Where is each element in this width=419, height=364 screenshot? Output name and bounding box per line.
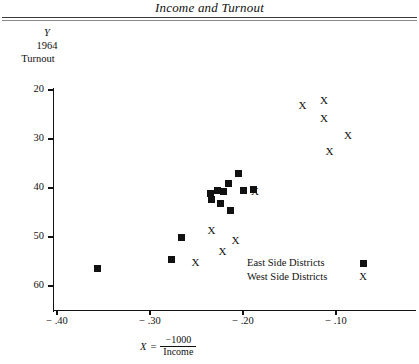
fraction-numerator: −1000 — [163, 335, 195, 346]
data-point-x: X — [230, 235, 241, 246]
y-tick — [48, 187, 53, 188]
data-point-x: X — [324, 146, 335, 157]
data-point-x: X — [297, 100, 308, 111]
y-axis-label-variable: Y — [36, 26, 58, 39]
x-tick-label: − .40 — [34, 315, 80, 326]
chart-title: Income and Turnout — [0, 0, 419, 16]
y-axis-label-year: 1964 — [24, 39, 70, 52]
data-point-square — [227, 207, 234, 214]
x-tick-label: − .10 — [313, 315, 359, 326]
legend-item-west-side: West Side Districts X — [247, 270, 371, 284]
legend-label-west-side: West Side Districts — [247, 270, 355, 284]
y-tick-label: 30 — [18, 132, 44, 143]
title-rule-lower — [2, 20, 417, 21]
data-point-x: X — [250, 186, 261, 197]
data-point-square — [225, 180, 232, 187]
x-axis-label-fraction: −1000 Income — [160, 335, 196, 357]
x-axis-label-equals: = — [150, 341, 156, 352]
data-point-square — [94, 265, 101, 272]
legend-item-east-side: East Side Districts — [247, 256, 371, 270]
data-point-x: X — [343, 130, 354, 141]
y-tick-label: 20 — [18, 83, 44, 94]
data-point-square — [235, 170, 242, 177]
data-point-square — [240, 187, 247, 194]
data-point-square — [178, 234, 185, 241]
x-marker-icon: X — [355, 270, 371, 284]
data-point-x: X — [318, 95, 329, 106]
x-axis-label-variable: X — [140, 341, 146, 352]
y-tick — [48, 285, 53, 286]
x-tick-label: − .20 — [220, 315, 266, 326]
y-axis-label-turnout: Turnout — [6, 52, 70, 65]
fraction-denominator: Income — [160, 346, 196, 358]
legend-label-east-side: East Side Districts — [247, 256, 355, 270]
chart-legend: East Side Districts West Side Districts … — [247, 256, 371, 284]
data-point-x: X — [318, 113, 329, 124]
y-tick-label: 40 — [18, 181, 44, 192]
x-tick-label: − .30 — [127, 315, 173, 326]
data-point-x: X — [206, 225, 217, 236]
y-axis-line — [53, 88, 54, 312]
data-point-square — [208, 196, 215, 203]
y-tick — [48, 236, 53, 237]
title-rule-upper — [2, 17, 417, 18]
data-point-x: X — [190, 257, 201, 268]
chart-figure: Income and Turnout Y 1964 Turnout 605040… — [0, 0, 419, 364]
y-tick — [48, 138, 53, 139]
data-point-x: X — [217, 246, 228, 257]
y-tick-label: 50 — [18, 230, 44, 241]
square-marker-icon — [355, 256, 371, 270]
data-point-square — [220, 188, 227, 195]
x-axis-line — [53, 310, 416, 311]
y-tick-label: 60 — [18, 279, 44, 290]
y-tick — [48, 89, 53, 90]
data-point-square — [168, 256, 175, 263]
data-point-square — [217, 200, 224, 207]
x-axis-label: X = −1000 Income — [140, 335, 196, 357]
